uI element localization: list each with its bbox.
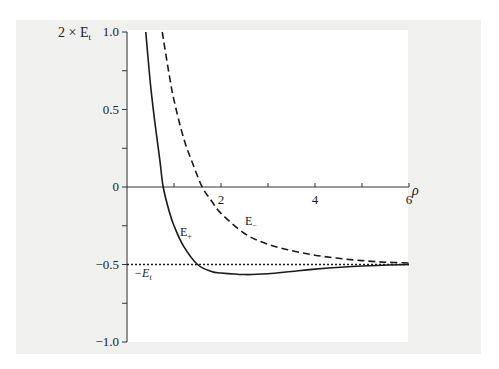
- y-tick-label: 1.0: [103, 24, 119, 39]
- y-tick-label: 0.5: [103, 102, 119, 117]
- axes: −1.0−0.500.51.0246: [95, 24, 412, 349]
- y-tick-label: −0.5: [95, 257, 119, 272]
- y-tick-label: −1.0: [95, 334, 119, 349]
- x-axis-title: ρ: [411, 183, 419, 198]
- x-tick-label: 2: [218, 192, 225, 207]
- chart: −1.0−0.500.51.0246 2 × Et ρ E+ E− −Et: [0, 0, 499, 369]
- curve-e-minus: [162, 32, 409, 263]
- curves: [127, 32, 409, 275]
- y-axis-title: 2 × Et: [58, 25, 91, 42]
- x-tick-label: 4: [312, 192, 319, 207]
- y-tick-label: 0: [113, 179, 120, 194]
- label-e-plus: E+: [180, 225, 192, 241]
- label-neg-et: −Et: [134, 266, 152, 282]
- label-e-minus: E−: [245, 214, 257, 230]
